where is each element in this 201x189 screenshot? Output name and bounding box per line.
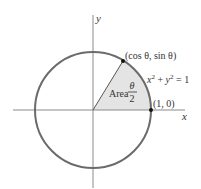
x-axis-label: x [181, 110, 187, 122]
y-axis-label: y [95, 12, 101, 24]
sector-area-numerator: θ [130, 80, 135, 91]
sector-area [93, 61, 151, 110]
point-cos-sin-label: (cos θ, sin θ) [125, 50, 176, 62]
sector-area-denominator: 2 [130, 93, 135, 104]
circle-equation: x2 + y2 = 1 [146, 73, 189, 85]
point-one-zero-label: (1, 0) [153, 98, 175, 110]
sector-area-word: Area [109, 88, 129, 99]
unit-circle-diagram: y x (cos θ, sin θ) (1, 0) x2 + y2 = 1 Ar… [0, 0, 201, 189]
